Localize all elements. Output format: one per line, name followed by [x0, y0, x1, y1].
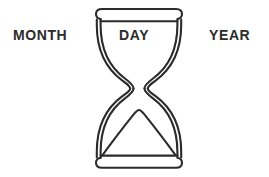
illustration-canvas: MONTH DAY YEAR [0, 0, 269, 177]
label-day: DAY [119, 28, 149, 42]
lower-bulb-inner-left [101, 88, 134, 157]
sand-mound [103, 110, 176, 155]
label-month: MONTH [13, 28, 67, 42]
label-year: YEAR [209, 28, 250, 42]
